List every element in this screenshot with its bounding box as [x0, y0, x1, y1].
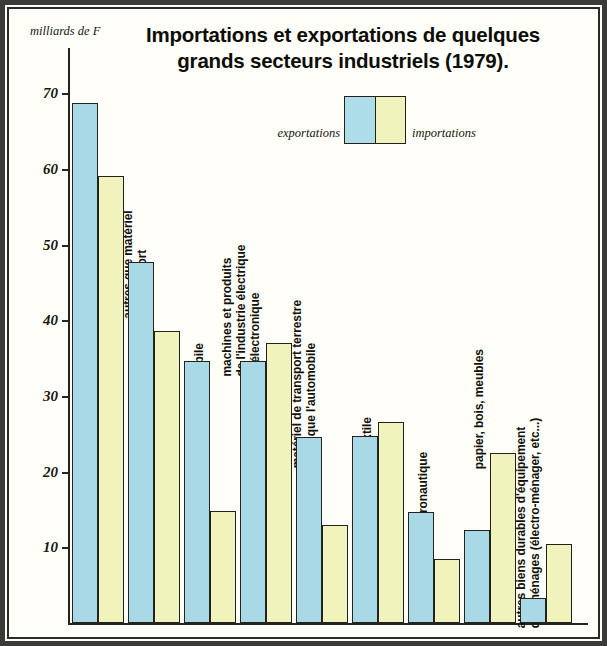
bar-importations	[434, 559, 460, 623]
y-tick-mark	[62, 93, 70, 95]
bar-exportations	[128, 262, 154, 623]
y-tick-mark	[62, 472, 70, 474]
bar-exportations	[72, 103, 98, 623]
bar-importations	[266, 343, 292, 623]
y-axis-unit-label: milliards de F	[30, 24, 100, 39]
y-tick-label: 10	[43, 539, 58, 556]
y-tick-mark	[62, 169, 70, 171]
legend-swatch-exportations	[345, 97, 375, 143]
y-tick-mark	[62, 396, 70, 398]
bar-exportations	[520, 598, 546, 623]
y-tick-label: 40	[43, 312, 58, 329]
legend-swatch-pair	[344, 96, 406, 144]
legend-swatch-importations	[375, 97, 406, 143]
x-axis	[68, 623, 588, 625]
plot-area: milliards de F Importations et exportati…	[0, 0, 607, 646]
bar-exportations	[352, 436, 378, 623]
bar-importations	[210, 511, 236, 623]
bar-importations	[154, 331, 180, 623]
category-label: machines et produits de l'industrie élec…	[220, 245, 262, 377]
category-label: autres biens durables d'équipement des m…	[514, 418, 542, 628]
legend-label-exportations: exportations	[272, 126, 340, 141]
y-tick-label: 30	[43, 387, 58, 404]
chart-title-line-1: Importations et exportations de quelques	[118, 22, 568, 48]
chart-title-line-2: grands secteurs industriels (1979).	[118, 48, 568, 74]
bar-importations	[490, 453, 516, 623]
bar-exportations	[464, 530, 490, 623]
y-tick-label: 20	[43, 463, 58, 480]
y-tick-mark	[62, 547, 70, 549]
bar-exportations	[296, 437, 322, 623]
chart-title: Importations et exportations de quelques…	[118, 22, 568, 74]
y-axis	[68, 48, 70, 624]
y-tick-mark	[62, 320, 70, 322]
y-tick-label: 50	[43, 236, 58, 253]
y-tick-mark	[62, 245, 70, 247]
y-tick-label: 60	[43, 160, 58, 177]
category-label: papier, bois, meubles	[472, 349, 486, 469]
bar-importations	[322, 525, 348, 623]
bar-importations	[98, 176, 124, 623]
bar-exportations	[184, 361, 210, 623]
y-tick-label: 70	[43, 85, 58, 102]
bar-exportations	[240, 361, 266, 623]
legend-label-importations: importations	[412, 126, 476, 141]
bar-importations	[546, 544, 572, 623]
bar-exportations	[408, 512, 434, 623]
bar-importations	[378, 422, 404, 623]
chart-figure: milliards de F Importations et exportati…	[0, 0, 607, 646]
